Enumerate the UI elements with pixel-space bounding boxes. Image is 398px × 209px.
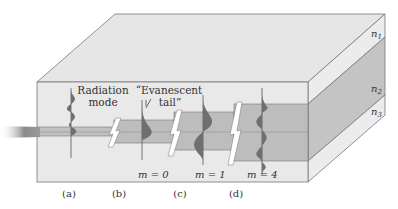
waveguide-diagram: Radiation mode “Evanescent tail” n1 n2 n… xyxy=(0,0,398,209)
evanescent-label-line2: tail” xyxy=(159,96,182,108)
panel-label-d: (d) xyxy=(229,188,243,199)
panel-label-a: (a) xyxy=(62,188,76,199)
panel-label-b: (b) xyxy=(112,188,126,199)
evanescent-label-line1: “Evanescent xyxy=(136,84,203,96)
mode-label-b: m = 0 xyxy=(138,169,169,180)
mode-label-d: m = 4 xyxy=(247,169,278,180)
mode-label-c: m = 1 xyxy=(195,169,226,180)
radiation-label-line1: Radiation xyxy=(77,84,129,96)
radiation-label-line2: mode xyxy=(88,96,117,108)
input-beam xyxy=(0,126,40,138)
panel-label-c: (c) xyxy=(173,188,187,199)
core-segment-d xyxy=(234,104,308,161)
